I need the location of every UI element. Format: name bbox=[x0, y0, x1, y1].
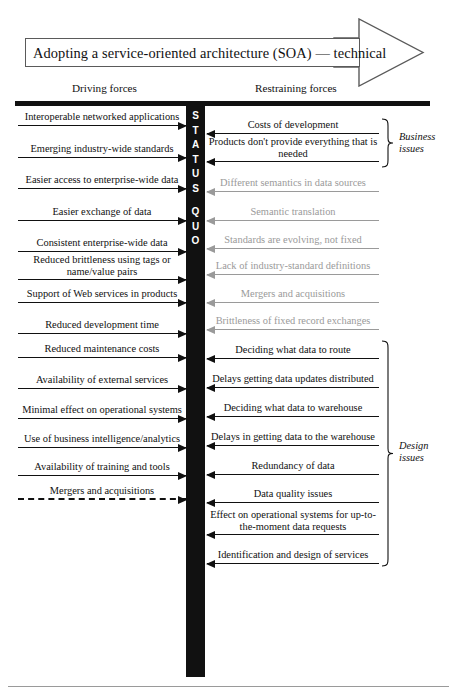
force-arrow-shaft bbox=[18, 418, 186, 419]
force-label: Emerging industry-wide standards bbox=[18, 143, 186, 155]
force-arrow: Support of Web services in products bbox=[18, 277, 186, 303]
force-arrow: Costs of development bbox=[207, 108, 379, 134]
force-label: Use of business intelligence/analytics bbox=[18, 433, 186, 445]
force-label: Minimal effect on operational systems bbox=[18, 404, 186, 416]
force-arrow-shaft bbox=[18, 302, 186, 303]
force-arrow: Redundancy of data bbox=[207, 449, 379, 475]
force-arrow-shaft bbox=[207, 329, 379, 330]
force-arrow: Identification and design of services bbox=[207, 538, 379, 564]
force-arrow-shaft bbox=[207, 220, 379, 221]
force-arrow-shaft bbox=[207, 274, 379, 275]
force-arrow: Delays getting data updates distributed bbox=[207, 362, 379, 388]
force-label: Deciding what data to route bbox=[207, 344, 379, 356]
force-arrow-shaft bbox=[18, 357, 186, 358]
force-label: Consistent enterprise-wide data bbox=[18, 237, 186, 249]
force-label: Reduced development time bbox=[18, 319, 186, 331]
force-arrow: Availability of external services bbox=[18, 363, 186, 389]
force-label: Brittleness of fixed record exchanges bbox=[207, 315, 379, 327]
force-arrow: Deciding what data to warehouse bbox=[207, 391, 379, 417]
force-arrow: Minimal effect on operational systems bbox=[18, 393, 186, 419]
force-label: Easier exchange of data bbox=[18, 206, 186, 218]
arrow-head-left-icon bbox=[206, 499, 215, 507]
force-label: Lack of industry-standard definitions bbox=[207, 260, 379, 272]
force-arrow: Easier access to enterprise-wide data bbox=[18, 163, 186, 189]
force-label: Data quality issues bbox=[207, 488, 379, 500]
force-label: Deciding what data to warehouse bbox=[207, 402, 379, 414]
driving-forces-caption: Driving forces bbox=[72, 82, 137, 94]
force-arrow: Reduced development time bbox=[18, 308, 186, 334]
status-quo-letter: Q bbox=[192, 205, 200, 220]
force-label: Effect on operational systems for up-to-… bbox=[207, 509, 379, 532]
force-label: Reduced maintenance costs bbox=[18, 343, 186, 355]
status-quo-letter: S bbox=[192, 109, 199, 124]
group-label-line: Business bbox=[399, 131, 435, 143]
force-arrow: Delays in getting data to the warehouse bbox=[207, 420, 379, 446]
force-arrow-shaft bbox=[207, 563, 379, 564]
force-label: Reduced brittleness using tags or name/v… bbox=[18, 254, 186, 277]
arrow-head-right-icon bbox=[178, 496, 187, 504]
status-quo-letter: S bbox=[192, 182, 199, 197]
force-label: Availability of external services bbox=[18, 374, 186, 386]
force-arrow: Different semantics in data sources bbox=[207, 166, 379, 192]
group-label-line: Design bbox=[399, 440, 428, 452]
force-arrow-shaft bbox=[207, 534, 379, 535]
force-label: Identification and design of services bbox=[207, 549, 379, 561]
force-label: Products don't provide everything that i… bbox=[207, 136, 379, 159]
force-arrow-shaft bbox=[18, 447, 186, 448]
force-label: Different semantics in data sources bbox=[207, 177, 379, 189]
status-quo-bar: STATUSQUO bbox=[186, 101, 205, 677]
status-quo-letter: U bbox=[192, 167, 199, 182]
arrow-head-left-icon bbox=[206, 560, 215, 568]
status-quo-letter: T bbox=[192, 153, 198, 168]
force-arrow: Data quality issues bbox=[207, 477, 379, 503]
force-arrow-shaft bbox=[207, 133, 379, 134]
force-arrow-shaft bbox=[207, 302, 379, 303]
force-label: Redundancy of data bbox=[207, 460, 379, 472]
status-quo-letter: O bbox=[192, 234, 200, 249]
force-label: Support of Web services in products bbox=[18, 288, 186, 300]
force-arrow-shaft bbox=[207, 445, 379, 446]
force-arrow: Reduced maintenance costs bbox=[18, 332, 186, 358]
force-arrow: Availability of training and tools bbox=[18, 450, 186, 476]
force-arrow: Consistent enterprise-wide data bbox=[18, 226, 186, 252]
status-quo-letter: A bbox=[192, 138, 199, 153]
force-label: Mergers and acquisitions bbox=[207, 288, 379, 300]
force-arrow: Lack of industry-standard definitions bbox=[207, 249, 379, 275]
force-arrow: Effect on operational systems for up-to-… bbox=[207, 509, 379, 535]
force-arrow-shaft bbox=[18, 220, 186, 221]
force-arrow: Emerging industry-wide standards bbox=[18, 132, 186, 158]
force-arrow-shaft bbox=[207, 474, 379, 475]
force-label: Availability of training and tools bbox=[18, 461, 186, 473]
arrow-head-right-icon bbox=[178, 299, 187, 307]
arrow-head-right-icon bbox=[178, 185, 187, 193]
group-label-line: issues bbox=[399, 143, 435, 155]
force-arrow: Standards are evolving, not fixed bbox=[207, 223, 379, 249]
force-arrow-shaft bbox=[18, 251, 186, 252]
force-arrow: Use of business intelligence/analytics bbox=[18, 422, 186, 448]
restraining-forces-caption: Restraining forces bbox=[255, 82, 337, 94]
force-label: Delays in getting data to the warehouse bbox=[207, 431, 379, 443]
group-brace bbox=[381, 340, 394, 567]
page-title: Adopting a service-oriented architecture… bbox=[33, 44, 386, 61]
arrow-head-right-icon bbox=[178, 354, 187, 362]
force-arrow-shaft bbox=[18, 498, 186, 500]
force-label: Costs of development bbox=[207, 119, 379, 131]
force-arrow-shaft bbox=[207, 161, 379, 162]
force-label: Mergers and acquisitions bbox=[18, 485, 186, 497]
arrow-head-right-icon bbox=[178, 154, 187, 162]
bottom-divider bbox=[8, 686, 449, 687]
force-arrow: Mergers and acquisitions bbox=[18, 474, 186, 500]
force-field-diagram: Adopting a service-oriented architecture… bbox=[0, 0, 457, 698]
force-label: Semantic translation bbox=[207, 206, 379, 218]
force-arrow: Products don't provide everything that i… bbox=[207, 136, 379, 162]
force-arrow-shaft bbox=[207, 416, 379, 417]
force-label: Easier access to enterprise-wide data bbox=[18, 174, 186, 186]
force-label: Interoperable networked applications bbox=[18, 111, 186, 123]
force-arrow: Interoperable networked applications bbox=[18, 100, 186, 126]
group-label: Businessissues bbox=[399, 131, 435, 155]
force-arrow: Easier exchange of data bbox=[18, 195, 186, 221]
force-label: Standards are evolving, not fixed bbox=[207, 234, 379, 246]
group-label: Designissues bbox=[399, 440, 428, 464]
force-arrow: Brittleness of fixed record exchanges bbox=[207, 304, 379, 330]
force-arrow: Mergers and acquisitions bbox=[207, 277, 379, 303]
